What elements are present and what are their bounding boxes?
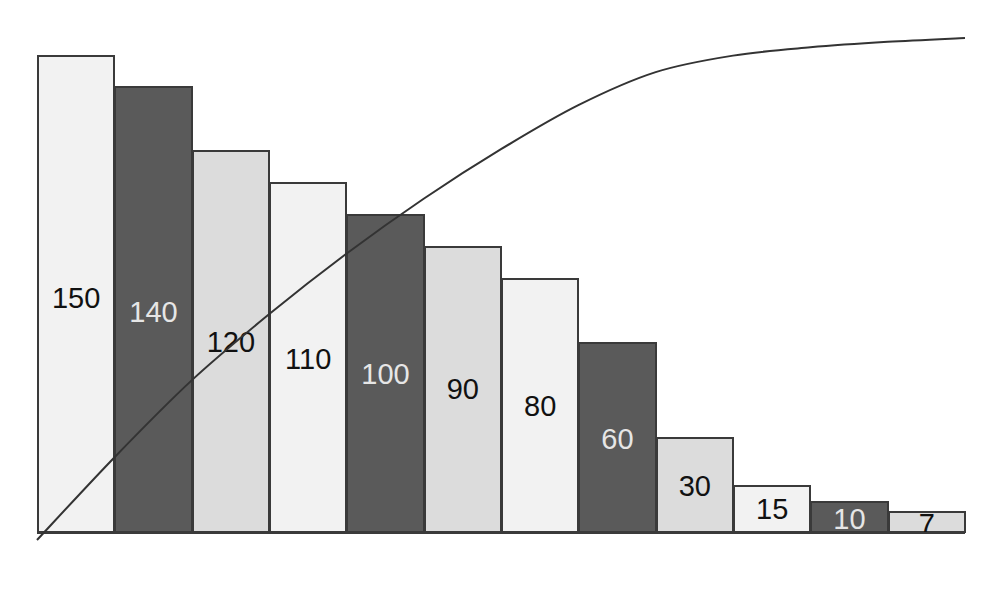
bar-value-label: 110 — [271, 345, 345, 374]
bar-2: 140 — [114, 86, 192, 533]
bar-1: 150 — [37, 55, 115, 534]
bar-10: 15 — [733, 485, 811, 533]
bar-8: 60 — [578, 342, 656, 533]
bar-4: 110 — [269, 182, 347, 533]
bar-value-label: 60 — [580, 425, 654, 454]
bar-value-label: 30 — [658, 472, 732, 501]
bar-5: 100 — [346, 214, 424, 533]
pareto-chart: 1501401201101009080603015107 — [0, 0, 1004, 593]
bar-3: 120 — [192, 150, 270, 533]
bar-value-label: 150 — [39, 284, 113, 313]
bar-value-label: 140 — [116, 298, 190, 327]
bar-value-label: 120 — [194, 328, 268, 357]
bar-7: 80 — [501, 278, 579, 533]
bar-value-label: 15 — [735, 495, 809, 524]
bar-value-label: 7 — [890, 510, 964, 539]
bar-11: 10 — [810, 501, 888, 533]
bar-value-label: 10 — [812, 505, 886, 534]
bar-9: 30 — [656, 437, 734, 533]
bar-12: 7 — [888, 511, 966, 533]
bar-value-label: 100 — [348, 360, 422, 389]
bar-6: 90 — [424, 246, 502, 533]
bar-value-label: 90 — [426, 375, 500, 404]
bar-value-label: 80 — [503, 392, 577, 421]
x-axis-baseline — [37, 532, 965, 534]
